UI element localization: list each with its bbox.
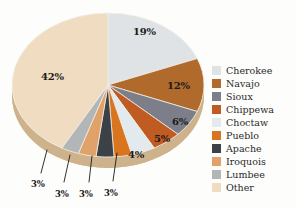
pie-plot-area: 19%12%6%5%4%42%3%3%3%3% xyxy=(0,0,212,209)
pie-value-label: 4% xyxy=(128,150,144,160)
pie-value-label: 42% xyxy=(41,72,64,82)
pie-value-label: 5% xyxy=(154,134,170,144)
legend-item-label: Choctaw xyxy=(226,118,268,128)
legend-item-choctaw[interactable]: Choctaw xyxy=(212,116,296,129)
legend-item-chippewa[interactable]: Chippewa xyxy=(212,103,296,116)
legend-swatch-icon xyxy=(212,170,221,179)
legend-swatch-icon xyxy=(212,105,221,114)
legend-swatch-icon xyxy=(212,144,221,153)
legend-item-navajo[interactable]: Navajo xyxy=(212,77,296,90)
legend-item-apache[interactable]: Apache xyxy=(212,142,296,155)
legend-item-label: Other xyxy=(226,183,254,193)
legend-swatch-icon xyxy=(212,66,221,75)
legend-swatch-icon xyxy=(212,183,221,192)
pie-value-label: 3% xyxy=(55,190,69,199)
legend-item-label: Apache xyxy=(226,144,262,154)
legend-item-lumbee[interactable]: Lumbee xyxy=(212,168,296,181)
legend-item-label: Iroquois xyxy=(226,157,266,167)
pie-svg xyxy=(0,0,212,209)
legend-swatch-icon xyxy=(212,79,221,88)
legend-item-cherokee[interactable]: Cherokee xyxy=(212,64,296,77)
legend-item-label: Sioux xyxy=(226,92,253,102)
leader-line-lumbee xyxy=(41,150,47,173)
legend-swatch-icon xyxy=(212,118,221,127)
legend-item-sioux[interactable]: Sioux xyxy=(212,90,296,103)
pie-value-label: 3% xyxy=(104,189,118,198)
legend-item-label: Pueblo xyxy=(226,131,259,141)
pie-chart-figure: 19%12%6%5%4%42%3%3%3%3% CherokeeNavajoSi… xyxy=(0,0,296,209)
pie-value-label: 3% xyxy=(31,180,45,189)
legend-item-label: Navajo xyxy=(226,79,260,89)
pie-value-label: 12% xyxy=(167,81,190,91)
legend-item-label: Chippewa xyxy=(226,105,274,115)
legend-swatch-icon xyxy=(212,131,221,140)
chart-legend: CherokeeNavajoSiouxChippewaChoctawPueblo… xyxy=(212,64,296,194)
legend-item-label: Cherokee xyxy=(226,66,272,76)
legend-swatch-icon xyxy=(212,92,221,101)
pie-value-label: 19% xyxy=(133,27,156,37)
legend-item-label: Lumbee xyxy=(226,170,265,180)
legend-swatch-icon xyxy=(212,157,221,166)
legend-item-iroquois[interactable]: Iroquois xyxy=(212,155,296,168)
legend-item-pueblo[interactable]: Pueblo xyxy=(212,129,296,142)
pie-value-label: 6% xyxy=(172,117,188,127)
legend-item-other[interactable]: Other xyxy=(212,181,296,194)
pie-value-label: 3% xyxy=(79,190,93,199)
